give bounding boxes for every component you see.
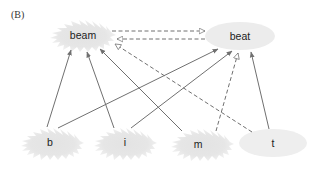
node-m: m bbox=[171, 129, 234, 161]
edge-b-to-beam bbox=[47, 50, 71, 127]
starburst-shape bbox=[171, 129, 234, 161]
node-beam: beam bbox=[50, 20, 116, 52]
node-label-t: t bbox=[272, 137, 275, 149]
node-label-m: m bbox=[194, 138, 203, 150]
edge-t-to-beam bbox=[115, 44, 252, 132]
node-b: b bbox=[21, 128, 84, 160]
node-beat: beat bbox=[205, 22, 275, 50]
edge-b-to-beat bbox=[58, 49, 218, 128]
node-label-b: b bbox=[47, 136, 53, 148]
edge-i-to-beam bbox=[87, 52, 114, 128]
edge-i-to-beat bbox=[131, 51, 232, 128]
node-t: t bbox=[239, 129, 307, 157]
node-label-beam: beam bbox=[70, 29, 97, 41]
edge-m-to-beat bbox=[216, 53, 238, 131]
edge-t-to-beat bbox=[251, 52, 269, 129]
edge-m-to-beam bbox=[100, 49, 182, 131]
node-i: i bbox=[94, 128, 157, 160]
word-recognition-diagram: beam beat b i m t bbox=[0, 0, 312, 169]
node-label-i: i bbox=[124, 136, 126, 148]
node-label-beat: beat bbox=[230, 30, 251, 42]
